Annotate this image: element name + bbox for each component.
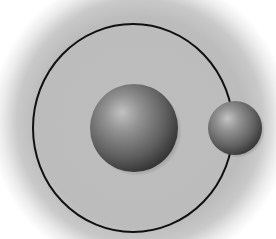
orbit-diagram bbox=[0, 0, 276, 239]
orbiting-body-sphere bbox=[208, 101, 262, 155]
diagram-canvas bbox=[0, 0, 276, 239]
central-body-sphere bbox=[90, 84, 178, 172]
